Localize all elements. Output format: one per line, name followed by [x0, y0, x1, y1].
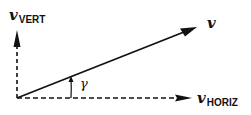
- v-vert-label: vVERT: [9, 6, 45, 25]
- angle-gamma-arrow: [69, 76, 74, 98]
- angle-gamma-label: γ: [80, 76, 88, 91]
- v-horiz-label: vHORIZ: [197, 89, 238, 108]
- v-label: v: [207, 14, 216, 32]
- v-arrow: [17, 27, 197, 98]
- v-horiz-arrow: [17, 95, 192, 102]
- v-vert-arrow: [14, 30, 21, 98]
- velocity-diagram: vVERT v vHORIZ γ: [0, 0, 251, 115]
